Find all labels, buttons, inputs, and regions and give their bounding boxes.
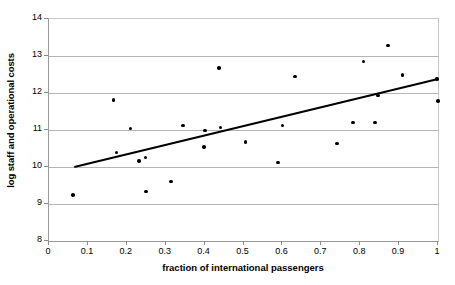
gridline <box>49 204 438 205</box>
x-tick-label: 0.5 <box>228 246 258 256</box>
y-tick-mark <box>44 92 48 93</box>
y-tick-label: 11 <box>20 123 42 133</box>
y-tick-label: 8 <box>20 234 42 244</box>
x-tick-mark <box>398 241 399 245</box>
x-axis-title: fraction of international passengers <box>48 262 438 273</box>
x-tick-mark <box>87 241 88 245</box>
y-tick-label: 13 <box>20 49 42 59</box>
x-tick-label: 1 <box>422 246 452 256</box>
y-tick-mark <box>44 129 48 130</box>
y-tick-label: 9 <box>20 197 42 207</box>
y-tick-label: 12 <box>20 86 42 96</box>
x-tick-label: 0.4 <box>189 246 219 256</box>
x-tick-label: 0.3 <box>150 246 180 256</box>
x-tick-label: 0.2 <box>111 246 141 256</box>
x-tick-label: 0.8 <box>344 246 374 256</box>
y-tick-label: 14 <box>20 12 42 22</box>
x-tick-mark <box>320 241 321 245</box>
x-tick-label: 0 <box>33 246 63 256</box>
gridlines <box>49 19 438 241</box>
plot-area <box>48 18 439 242</box>
gridline <box>49 56 438 57</box>
y-tick-mark <box>44 203 48 204</box>
x-tick-label: 0.9 <box>383 246 413 256</box>
x-tick-mark <box>437 241 438 245</box>
x-tick-label: 0.7 <box>305 246 335 256</box>
x-tick-mark <box>359 241 360 245</box>
gridline <box>49 130 438 131</box>
y-axis-title: log staff and operational costs <box>0 0 20 240</box>
x-tick-mark <box>126 241 127 245</box>
x-tick-mark <box>281 241 282 245</box>
y-tick-mark <box>44 18 48 19</box>
gridline <box>49 167 438 168</box>
scatter-chart: log staff and operational costs fraction… <box>0 0 455 285</box>
x-tick-label: 0.1 <box>72 246 102 256</box>
x-tick-mark <box>165 241 166 245</box>
y-tick-mark <box>44 55 48 56</box>
y-tick-label: 10 <box>20 160 42 170</box>
y-axis-title-text: log staff and operational costs <box>5 53 16 188</box>
y-tick-mark <box>44 166 48 167</box>
x-tick-mark <box>48 241 49 245</box>
gridline <box>49 93 438 94</box>
x-tick-mark <box>204 241 205 245</box>
x-tick-label: 0.6 <box>266 246 296 256</box>
x-tick-mark <box>243 241 244 245</box>
